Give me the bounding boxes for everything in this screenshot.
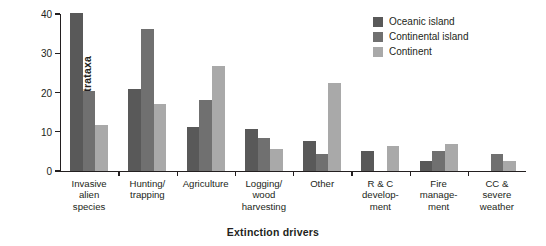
x-axis-tick <box>293 171 294 176</box>
bar-group <box>128 14 166 171</box>
x-axis-tick <box>468 171 469 176</box>
bar <box>70 13 83 171</box>
bar-slot <box>303 14 316 171</box>
x-axis-tick <box>118 171 119 176</box>
x-axis-tick <box>177 171 178 176</box>
legend-label: Continental island <box>389 31 469 42</box>
x-axis-category-line: Hunting/ <box>118 178 176 189</box>
bar <box>303 141 316 171</box>
x-axis-tick <box>235 171 236 176</box>
bar <box>187 127 200 171</box>
bar <box>387 146 400 171</box>
x-axis-category-labels: InvasivealienspeciesHunting/trappingAgri… <box>60 178 526 224</box>
x-axis-category-line: wood <box>235 189 293 200</box>
bar-slot <box>83 14 96 171</box>
legend-item[interactable]: Continent <box>373 45 469 59</box>
x-axis-title: Extinction drivers <box>0 226 546 238</box>
x-axis-tick <box>351 171 352 176</box>
bar-group <box>70 14 108 171</box>
bar <box>141 29 154 171</box>
x-axis-category-line: Invasive <box>60 178 118 189</box>
x-axis-category-line: develop- <box>351 189 409 200</box>
legend-label: Continent <box>389 46 432 57</box>
x-axis-category-line: ment <box>351 201 409 212</box>
bar-slot <box>316 14 329 171</box>
x-axis-category-line: Other <box>293 178 351 189</box>
bar-slot <box>491 14 504 171</box>
bar <box>420 161 433 171</box>
bar-slot <box>95 14 108 171</box>
x-axis-category-line: severe <box>468 189 526 200</box>
bar <box>199 100 212 171</box>
x-axis-category-line: species <box>60 201 118 212</box>
legend-swatch-icon <box>373 32 383 42</box>
chart-legend: Oceanic islandContinental islandContinen… <box>373 15 469 60</box>
bar-slot <box>258 14 271 171</box>
bar-group <box>478 14 516 171</box>
bar <box>503 161 516 171</box>
x-axis-category-line: CC & <box>468 178 526 189</box>
x-axis-category-line: ment <box>410 201 468 212</box>
bar <box>270 149 283 171</box>
bar <box>445 144 458 171</box>
bar-slot <box>70 14 83 171</box>
bar-slot <box>245 14 258 171</box>
bar <box>154 104 167 171</box>
x-axis-category-label: Hunting/trapping <box>118 178 176 201</box>
bar-group <box>303 14 341 171</box>
x-axis-category-label: Logging/woodharvesting <box>235 178 293 212</box>
legend-swatch-icon <box>373 47 383 57</box>
x-axis-category-line: harvesting <box>235 201 293 212</box>
y-axis-tick-label: 20 <box>41 87 52 98</box>
x-axis-category-line: trapping <box>118 189 176 200</box>
bar <box>212 66 225 171</box>
x-axis-category-line: alien <box>60 189 118 200</box>
x-axis-category-line: R & C <box>351 178 409 189</box>
bar-slot <box>154 14 167 171</box>
y-axis-tick-label: 0 <box>46 166 52 177</box>
x-axis-category-label: Other <box>293 178 351 189</box>
x-axis-category-label: R & Cdevelop-ment <box>351 178 409 212</box>
bar <box>258 138 271 171</box>
y-axis-tick-label: 40 <box>41 9 52 20</box>
bar-slot <box>270 14 283 171</box>
bar <box>83 91 96 171</box>
bar <box>432 151 445 171</box>
bar <box>491 154 504 171</box>
x-axis-category-label: Invasivealienspecies <box>60 178 118 212</box>
x-axis-tick <box>410 171 411 176</box>
legend-swatch-icon <box>373 17 383 27</box>
bar-chart-figure: % ultrataxa 010203040 Invasivealienspeci… <box>0 0 546 246</box>
bar-slot <box>328 14 341 171</box>
bar-group <box>245 14 283 171</box>
bar <box>245 129 258 171</box>
legend-label: Oceanic island <box>389 16 455 27</box>
bar <box>128 89 141 171</box>
bar-slot <box>212 14 225 171</box>
bar-slot <box>199 14 212 171</box>
bar-slot <box>503 14 516 171</box>
y-axis-tick-label: 10 <box>41 126 52 137</box>
x-axis-category-line: Agriculture <box>177 178 235 189</box>
x-axis-category-line: weather <box>468 201 526 212</box>
x-axis-category-label: Agriculture <box>177 178 235 189</box>
x-axis-category-line: Logging/ <box>235 178 293 189</box>
legend-item[interactable]: Continental island <box>373 30 469 44</box>
x-axis-category-label: CC &severeweather <box>468 178 526 212</box>
x-axis-category-line: manage- <box>410 189 468 200</box>
bar-slot <box>187 14 200 171</box>
bar <box>361 151 374 171</box>
bar <box>95 125 108 171</box>
y-axis-tick-label: 30 <box>41 48 52 59</box>
bar-slot <box>141 14 154 171</box>
bar <box>328 83 341 171</box>
legend-item[interactable]: Oceanic island <box>373 15 469 29</box>
bar-slot <box>478 14 491 171</box>
bar-group <box>187 14 225 171</box>
x-axis-category-label: Firemanage-ment <box>410 178 468 212</box>
bar <box>316 154 329 171</box>
x-axis-category-line: Fire <box>410 178 468 189</box>
bar-slot <box>128 14 141 171</box>
